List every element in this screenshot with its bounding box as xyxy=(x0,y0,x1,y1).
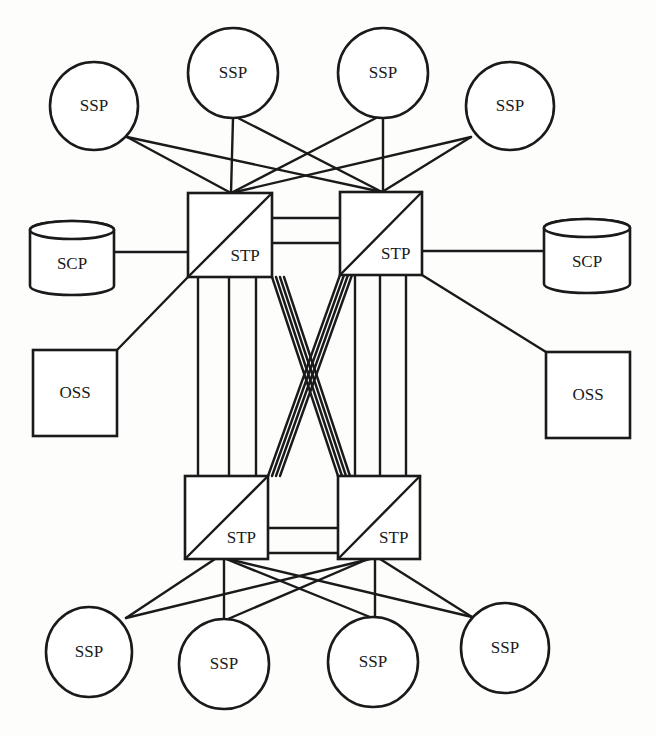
stp-bottom-left[interactable]: STP xyxy=(185,476,268,559)
diagram-svg: STPSTPSTPSTPSSPSSPSSPSSPSSPSSPSSPSSPSCPS… xyxy=(0,0,656,735)
signaling-link xyxy=(382,137,471,192)
oss-right[interactable]: OSS xyxy=(546,352,630,438)
signaling-link xyxy=(231,118,376,193)
ssp-bottom-2[interactable]: SSP xyxy=(179,619,269,709)
stp-label: STP xyxy=(230,246,259,265)
oss-label: OSS xyxy=(572,385,603,404)
signaling-link xyxy=(231,118,233,193)
ssp-bottom-1[interactable]: SSP xyxy=(46,607,132,697)
ssp-top-2[interactable]: SSP xyxy=(188,28,278,118)
signaling-link xyxy=(127,137,231,193)
stp-top-left[interactable]: STP xyxy=(188,193,272,277)
scp-left[interactable]: SCP xyxy=(30,221,114,295)
ssp-top-3[interactable]: SSP xyxy=(338,28,428,118)
signaling-link xyxy=(238,118,382,192)
stp-label: STP xyxy=(379,528,408,547)
signaling-link xyxy=(422,275,546,352)
signaling-link xyxy=(127,137,382,192)
ssp-label: SSP xyxy=(369,63,397,82)
oss-left[interactable]: OSS xyxy=(33,350,117,436)
ssp-label: SSP xyxy=(80,96,108,115)
stp-label: STP xyxy=(227,528,256,547)
stp-label: STP xyxy=(381,244,410,263)
cylinder-top-icon xyxy=(544,219,630,237)
scp-label: SCP xyxy=(57,254,87,273)
ssp-label: SSP xyxy=(359,652,387,671)
ssp-label: SSP xyxy=(496,96,524,115)
ssp-bottom-4[interactable]: SSP xyxy=(461,603,549,693)
ssp-label: SSP xyxy=(491,638,519,657)
ssp-label: SSP xyxy=(219,63,247,82)
ssp-label: SSP xyxy=(210,654,238,673)
links-layer xyxy=(114,118,546,619)
scp-label: SCP xyxy=(572,252,602,271)
scp-right[interactable]: SCP xyxy=(544,219,630,293)
ss7-network-diagram: STPSTPSTPSTPSSPSSPSSPSSPSSPSSPSSPSSPSCPS… xyxy=(0,0,656,735)
signaling-link xyxy=(117,277,188,350)
stp-top-right[interactable]: STP xyxy=(340,192,422,275)
ssp-top-4[interactable]: SSP xyxy=(466,62,554,150)
ssp-top-1[interactable]: SSP xyxy=(50,62,138,150)
signaling-link xyxy=(380,559,472,617)
ssp-bottom-3[interactable]: SSP xyxy=(328,617,418,707)
signaling-link xyxy=(126,559,215,618)
nodes-layer: STPSTPSTPSTPSSPSSPSSPSSPSSPSSPSSPSSPSCPS… xyxy=(30,28,630,709)
cylinder-top-icon xyxy=(30,221,114,239)
stp-bottom-right[interactable]: STP xyxy=(338,476,420,559)
oss-label: OSS xyxy=(59,383,90,402)
ssp-label: SSP xyxy=(75,642,103,661)
